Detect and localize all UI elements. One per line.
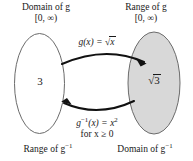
label-range-of-g-text: Range of g [125, 2, 167, 12]
label-range-of-g-interval: [0, ∞) [104, 13, 188, 24]
label-range-of-g-inverse-exponent: −1 [65, 142, 72, 149]
square-root-icon: √x [105, 36, 115, 48]
inverse-function-diagram: Domain of g [0, ∞) Range of g [0, ∞) g(x… [0, 0, 193, 161]
domain-set-value-text: 3 [37, 75, 43, 87]
range-set-value-text: 3 [153, 74, 161, 86]
label-domain-of-g-inverse-exponent: −1 [165, 142, 172, 149]
square-root-icon: √3 [148, 74, 161, 86]
label-domain-of-g-inverse: Domain of g−1 [99, 144, 191, 155]
inverse-function-rhs-exponent: 2 [114, 116, 117, 123]
inverse-function-equals: = [102, 118, 107, 128]
label-range-of-g-inverse: Range of g−1 [2, 144, 94, 155]
forward-function-equals: = [97, 37, 102, 47]
label-inverse-condition: for x ≥ 0 [52, 129, 142, 140]
forward-function-name: g(x) [78, 37, 93, 47]
label-range-of-g-interval-text: [0, ∞) [135, 13, 158, 23]
label-range-of-g-inverse-text: Range of g [24, 144, 66, 154]
label-inverse-function: g−1(x)=x2 [52, 118, 142, 129]
inverse-arrow [61, 98, 134, 110]
label-domain-of-g-interval: [0, ∞) [4, 13, 88, 24]
label-forward-function: g(x)=√x [57, 36, 137, 48]
label-range-of-g: Range of g [104, 2, 188, 13]
label-domain-of-g: Domain of g [4, 2, 88, 13]
domain-set-value: 3 [14, 76, 66, 87]
label-domain-of-g-inverse-text: Domain of g [117, 144, 165, 154]
forward-function-radicand: x [109, 36, 115, 48]
range-set-value: √3 [128, 74, 181, 86]
inverse-function-argument: (x) [88, 118, 99, 128]
label-inverse-condition-text: for x ≥ 0 [81, 129, 114, 139]
label-domain-of-g-interval-text: [0, ∞) [35, 13, 58, 23]
label-domain-of-g-text: Domain of g [22, 2, 70, 12]
